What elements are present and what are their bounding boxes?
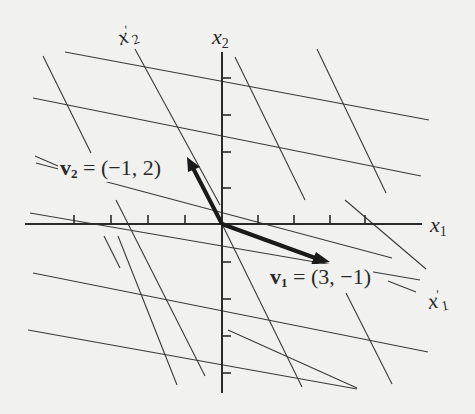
grid-lines-parallel-v2 — [43, 49, 426, 387]
vector-v2-label: v2 = (−1, 2) — [58, 155, 163, 182]
diagram-canvas — [0, 0, 475, 414]
x1-axis-label: x1 — [430, 212, 447, 240]
vector-v2-arrow — [187, 157, 222, 224]
x2-axis-label: x2 — [212, 24, 229, 52]
oblique-coordinate-diagram: x1 x2 x′2 x′1 v2 = (−1, 2) v1 = (3, −1) — [0, 0, 475, 414]
vector-v1-arrow — [222, 224, 330, 265]
vector-v1-label: v1 = (3, −1) — [268, 264, 373, 291]
